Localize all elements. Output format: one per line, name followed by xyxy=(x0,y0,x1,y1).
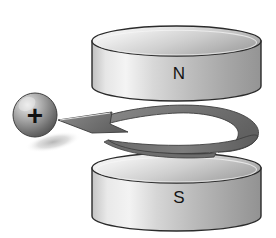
top-magnet-pole-label: N xyxy=(173,64,185,83)
charge-sign-label: + xyxy=(27,100,43,131)
magnet-charge-diagram: N S xyxy=(0,0,276,238)
spiral-motion-arrow xyxy=(58,105,259,158)
illustration-canvas: N S xyxy=(0,0,276,238)
top-magnet: N xyxy=(92,26,261,101)
bottom-magnet-pole-label: S xyxy=(173,188,184,207)
bottom-magnet: S xyxy=(92,153,261,231)
